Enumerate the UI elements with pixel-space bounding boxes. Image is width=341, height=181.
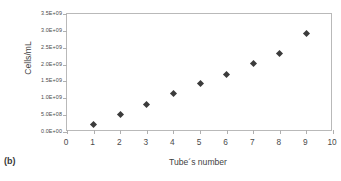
y-axis-tick-label: 1.0E+09 [2,94,62,100]
y-axis-tick [63,81,67,82]
y-axis-tick-label: 2.0E+09 [2,61,62,67]
y-axis-tick [63,14,67,15]
data-point-marker [90,121,97,128]
data-point-marker [143,100,150,107]
x-axis-tick [227,130,228,134]
plot-area [66,13,332,131]
y-axis-tick [63,31,67,32]
x-axis-tick [333,130,334,134]
x-axis-tick-label: 9 [295,137,315,147]
y-axis-tick-label: 5.0E+08 [2,111,62,117]
y-axis-tick [63,48,67,49]
x-axis-tick [147,130,148,134]
y-axis-tick-label: 3.0E+09 [2,27,62,33]
x-axis-tick-label: 5 [189,137,209,147]
data-point-marker [250,60,257,67]
data-point-marker [196,80,203,87]
x-axis-tick-label: 7 [242,137,262,147]
panel-caption: (b) [4,156,16,166]
x-axis-tick [173,130,174,134]
data-point-marker [276,50,283,57]
x-axis-tick [200,130,201,134]
x-axis-tick-label: 8 [269,137,289,147]
x-axis-tick-label: 0 [56,137,76,147]
y-axis-tick-label: 3.5E+09 [2,10,62,16]
x-axis-title: Tube´s number [66,157,330,167]
x-axis-tick [67,130,68,134]
x-axis-tick-label: 6 [216,137,236,147]
x-axis-tick-label: 2 [109,137,129,147]
data-point-marker [117,111,124,118]
y-axis-tick-label: 0.0E+00 [2,128,62,134]
y-axis-tick-label: 1.5E+09 [2,77,62,83]
data-point-marker [223,71,230,78]
y-axis-tick [63,98,67,99]
x-axis-tick-label: 10 [322,137,341,147]
y-axis-tick-label: 2.5E+09 [2,44,62,50]
y-axis-tick [63,65,67,66]
x-axis-tick [306,130,307,134]
x-axis-tick-label: 1 [83,137,103,147]
figure-panel-b: Cells/mL Tube´s number (b) 0.0E+005.0E+0… [0,0,341,181]
x-axis-tick [120,130,121,134]
data-point-marker [303,30,310,37]
x-axis-tick [280,130,281,134]
x-axis-tick [253,130,254,134]
y-axis-tick [63,115,67,116]
x-axis-tick-label: 3 [136,137,156,147]
x-axis-tick [94,130,95,134]
data-point-marker [170,90,177,97]
x-axis-tick-label: 4 [162,137,182,147]
